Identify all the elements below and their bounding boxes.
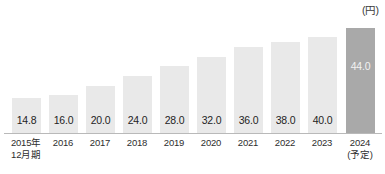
tick-label-2016: 2016: [43, 137, 83, 149]
bar-value-label: 14.8: [12, 114, 41, 126]
tick-line-1: 2015年: [11, 137, 41, 148]
tick-line-1: 2016: [53, 137, 73, 148]
bar-2023[interactable]: 40.0: [308, 37, 337, 134]
bar-2021[interactable]: 36.0: [234, 47, 263, 134]
tick-line-1: 2019: [164, 137, 184, 148]
bar-2022[interactable]: 38.0: [271, 42, 300, 134]
tick-label-2022: 2022: [265, 137, 305, 149]
tick-line-1: 2021: [238, 137, 258, 148]
bar-2018[interactable]: 24.0: [123, 76, 152, 134]
tick-label-2020: 2020: [191, 137, 231, 149]
tick-label-2021: 2021: [228, 137, 268, 149]
bar-value-label: 16.0: [49, 114, 78, 126]
tick-line-1: 2024: [350, 137, 370, 148]
tick-label-2024-forecast: 2024 (予定): [340, 137, 380, 161]
tick-line-1: 2018: [127, 137, 147, 148]
bar-2019[interactable]: 28.0: [160, 66, 189, 134]
bar-2024-forecast[interactable]: 44.0: [346, 28, 375, 134]
bar-value-label: 40.0: [308, 114, 337, 126]
bar-value-label: 28.0: [160, 114, 189, 126]
tick-line-1: 2020: [201, 137, 221, 148]
bar-value-label: 20.0: [86, 114, 115, 126]
bar-2020[interactable]: 32.0: [197, 57, 226, 134]
plot-area: 14.8 16.0 20.0 24.0 28.0 32.0: [0, 18, 385, 134]
tick-line-1: 2017: [90, 137, 110, 148]
tick-line-1: 2022: [275, 137, 295, 148]
x-axis-tick-labels: 2015年 12月期 2016 2017 2018 2019 2020 2021…: [0, 137, 385, 174]
bar-value-label: 38.0: [271, 114, 300, 126]
bar-value-label: 24.0: [123, 114, 152, 126]
tick-label-2023: 2023: [302, 137, 342, 149]
tick-label-2018: 2018: [117, 137, 157, 149]
bar-value-label: 36.0: [234, 114, 263, 126]
axis-baseline: [4, 133, 382, 134]
tick-label-2017: 2017: [80, 137, 120, 149]
tick-line-2: (予定): [340, 149, 380, 161]
bar-value-label: 32.0: [197, 114, 226, 126]
bar-value-label: 44.0: [346, 60, 375, 72]
tick-label-2019: 2019: [154, 137, 194, 149]
bar-chart: (円) 14.8 16.0 20.0 24.0 28.0: [0, 0, 385, 174]
bar-2015[interactable]: 14.8: [12, 98, 41, 134]
tick-line-2: 12月期: [6, 149, 46, 161]
tick-label-2015: 2015年 12月期: [6, 137, 46, 161]
bar-2017[interactable]: 20.0: [86, 86, 115, 134]
unit-label: (円): [362, 2, 379, 17]
bar-2016[interactable]: 16.0: [49, 95, 78, 134]
tick-line-1: 2023: [312, 137, 332, 148]
